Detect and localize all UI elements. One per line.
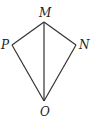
segment-no [44, 45, 76, 101]
vertex-label-m: M [38, 6, 52, 20]
segment-op [12, 45, 44, 101]
segment-mn [44, 22, 76, 45]
kite-diagram: M P N O [0, 0, 95, 118]
vertex-label-o: O [40, 105, 50, 118]
segment-pm [12, 22, 44, 45]
vertex-label-n: N [78, 38, 90, 52]
vertex-label-p: P [0, 38, 10, 52]
